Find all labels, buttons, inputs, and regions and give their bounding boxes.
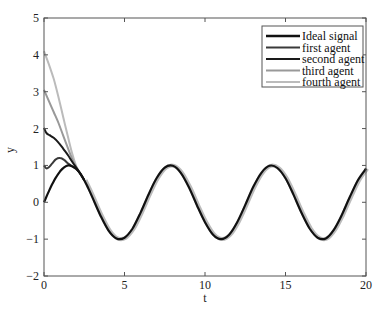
x-tick-label: 0: [41, 278, 47, 292]
y-tick-label: −2: [26, 269, 39, 283]
ideal-signal-line: [44, 165, 366, 239]
line-chart: 05101520−2−1012345 t y Ideal signalfirst…: [0, 0, 383, 311]
x-axis-label: t: [203, 291, 207, 305]
y-tick-label: 1: [33, 158, 39, 172]
y-tick-label: 2: [33, 122, 39, 136]
legend-label: fourth agent: [302, 75, 361, 89]
x-tick-label: 10: [199, 278, 211, 292]
y-tick-label: 3: [33, 85, 39, 99]
y-axis-label: y: [3, 147, 17, 153]
y-tick-label: 4: [33, 48, 39, 62]
x-tick-label: 15: [280, 278, 292, 292]
y-tick-label: 5: [33, 11, 39, 25]
converged-agents-band: [86, 165, 368, 239]
x-tick-label: 5: [122, 278, 128, 292]
y-tick-label: −1: [26, 232, 39, 246]
x-tick-label: 20: [360, 278, 372, 292]
legend: Ideal signalfirst agentsecond agentthird…: [262, 26, 365, 89]
y-tick-label: 0: [33, 195, 39, 209]
